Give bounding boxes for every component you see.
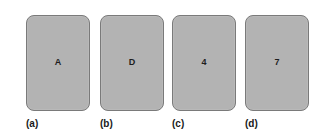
card-face-label: A (55, 57, 62, 67)
card-c: 4 (172, 15, 236, 111)
card-face-label: 7 (274, 57, 279, 67)
card-caption-c: (c) (172, 118, 184, 129)
card-face-label: 4 (201, 57, 206, 67)
card-a: A (26, 15, 90, 111)
card-d: 7 (245, 15, 309, 111)
card-caption-d: (d) (245, 118, 258, 129)
card-face-label: D (129, 57, 136, 67)
card-caption-b: (b) (100, 118, 113, 129)
card-caption-a: (a) (26, 118, 38, 129)
card-b: D (100, 15, 164, 111)
